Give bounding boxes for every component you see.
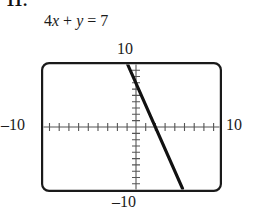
equation-equals-operator: =: [87, 12, 96, 29]
equation-variable-x: x: [52, 12, 59, 29]
equation-plus-operator: +: [63, 12, 72, 29]
y-min-label: –10: [112, 193, 136, 211]
equation-expression: 4x + y = 7: [44, 12, 108, 30]
graph-viewport: [41, 62, 222, 192]
equation-variable-y: y: [76, 12, 83, 29]
y-max-label: 10: [117, 40, 133, 58]
x-min-label: –10: [1, 116, 25, 134]
equation-coefficient: 4: [44, 12, 52, 29]
equation-constant: 7: [100, 12, 108, 29]
problem-number: 11.: [6, 0, 28, 11]
graph-svg: [41, 62, 222, 192]
x-max-label: 10: [226, 116, 242, 134]
